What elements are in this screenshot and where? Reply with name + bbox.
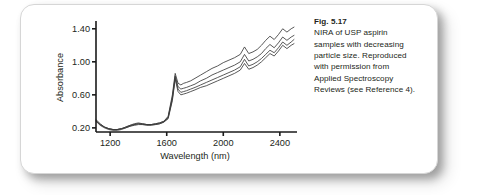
chart-axes xyxy=(96,21,297,132)
x-axis-tick-labels: 1200160020002400 xyxy=(100,132,290,148)
caption-line-3: particle size. Reproduced xyxy=(314,50,442,61)
x-axis-tick-label: 2400 xyxy=(270,138,290,148)
figure-number: Fig. 5.17 xyxy=(314,16,442,27)
figure-caption: Fig. 5.17 NIRA of USP aspirin samples wi… xyxy=(314,16,442,95)
y-axis-tick-label: 1.40 xyxy=(72,24,90,34)
x-axis-tick-label: 1600 xyxy=(156,138,176,148)
spectrum-trace xyxy=(96,27,294,129)
spectrum-trace xyxy=(96,35,294,129)
caption-line-2: samples with decreasing xyxy=(314,39,442,50)
y-axis-tick-label: 1.00 xyxy=(72,57,90,67)
caption-line-5: Applied Spectroscopy xyxy=(314,73,442,84)
figure-card: 1200160020002400 0.200.601.001.40 Wavele… xyxy=(20,4,438,174)
y-axis-tick-labels: 0.200.601.001.40 xyxy=(72,24,96,133)
y-axis-tick-label: 0.20 xyxy=(72,123,90,133)
figure-page: 1200160020002400 0.200.601.001.40 Wavele… xyxy=(0,0,479,195)
caption-line-6: Reviews (see Reference 4). xyxy=(314,84,442,95)
caption-line-1: NIRA of USP aspirin xyxy=(314,27,442,38)
y-axis-label: Absorbance xyxy=(55,53,65,102)
chart-svg: 1200160020002400 0.200.601.001.40 Wavele… xyxy=(51,15,301,165)
x-axis-label: Wavelength (nm) xyxy=(160,151,230,161)
x-axis-tick-label: 1200 xyxy=(100,138,120,148)
x-axis-tick-label: 2000 xyxy=(213,138,233,148)
caption-line-4: with permission from xyxy=(314,61,442,72)
y-axis-tick-label: 0.60 xyxy=(72,90,90,100)
spectrum-chart: 1200160020002400 0.200.601.001.40 Wavele… xyxy=(51,15,301,165)
spectra-traces xyxy=(96,27,294,130)
